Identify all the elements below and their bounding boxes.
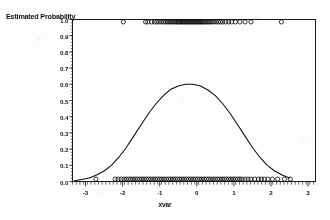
y-tick-label: 0.1 [51,162,69,169]
x-tick-label: 1 [232,189,235,196]
scatter-points-y1 [121,20,283,24]
x-tick-label: 0 [195,189,198,196]
y-tick-label: 0.7 [51,65,69,72]
plot-area [0,0,330,220]
x-tick-label: -3 [83,189,89,196]
figure-canvas: Estimated Probability xvar 1.00.90.80.70… [0,0,330,220]
y-tick-label: 0.4 [51,113,69,120]
x-tick-label: -1 [157,189,163,196]
y-tick-label: 0.9 [51,32,69,39]
y-tick-label: 1.0 [51,16,69,23]
y-tick-label: 0.3 [51,129,69,136]
density-curve [74,84,289,180]
scatter-points-y0 [94,177,293,181]
y-tick-label: 0.0 [51,178,69,185]
plot-frame [73,20,316,182]
y-tick-label: 0.6 [51,81,69,88]
x-tick-label: -2 [120,189,126,196]
y-tick-label: 0.2 [51,146,69,153]
y-tick-label: 0.5 [51,97,69,104]
y-tick-label: 0.8 [51,48,69,55]
x-axis-ticks [73,182,314,187]
x-tick-label: 2 [269,189,272,196]
x-tick-label: 3 [306,189,309,196]
